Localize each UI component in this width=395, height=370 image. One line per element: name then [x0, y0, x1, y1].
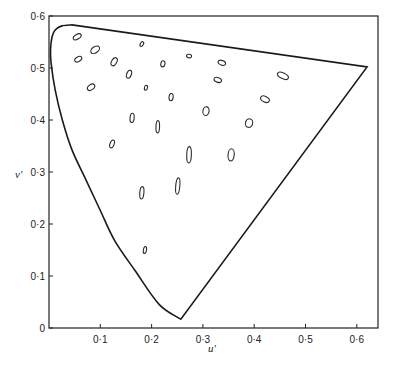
macadam-ellipse	[276, 71, 289, 81]
y-tick-label: 0·5	[31, 63, 46, 74]
macadam-ellipse	[260, 95, 271, 104]
y-tick-label: 0	[39, 323, 45, 334]
x-tick-label: 0·4	[247, 334, 262, 345]
macadam-ellipse	[213, 76, 222, 83]
macadam-ellipse	[72, 33, 82, 41]
y-tick-label: 0·1	[31, 271, 46, 282]
axis-ticks: 0·10·20·30·40·50·600·10·20·30·40·50·6	[31, 11, 365, 345]
y-tick-label: 0·2	[31, 219, 46, 230]
x-axis-label: u'	[208, 342, 217, 354]
macadam-ellipse	[144, 85, 148, 91]
x-tick-label: 0·1	[93, 334, 108, 345]
chromaticity-chart: 0·10·20·30·40·50·600·10·20·30·40·50·6 v'…	[0, 0, 395, 370]
y-axis-label: v'	[15, 168, 23, 180]
x-tick-label: 0·6	[350, 334, 365, 345]
y-tick-label: 0·3	[31, 167, 46, 178]
macadam-ellipse	[89, 44, 101, 55]
macadam-ellipse	[228, 148, 235, 161]
macadam-ellipse	[74, 55, 83, 63]
macadam-ellipse	[110, 57, 119, 67]
macadam-ellipse	[186, 147, 191, 164]
y-tick-label: 0·4	[31, 115, 46, 126]
spectrum-locus	[50, 25, 367, 319]
macadam-ellipse	[160, 60, 165, 67]
macadam-ellipse	[186, 54, 192, 58]
macadam-ellipse	[169, 93, 174, 101]
macadam-ellipse	[125, 70, 132, 79]
macadam-ellipse	[244, 118, 253, 128]
macadam-ellipse	[139, 186, 144, 199]
macadam-ellipse	[156, 121, 160, 133]
macadam-ellipse	[202, 106, 210, 116]
plot-frame	[49, 16, 378, 328]
macadam-ellipse	[86, 83, 96, 92]
x-tick-label: 0·5	[298, 334, 313, 345]
macadam-ellipse	[217, 59, 226, 66]
x-tick-label: 0·2	[144, 334, 159, 345]
y-tick-label: 0·6	[31, 11, 46, 22]
macadam-ellipse	[130, 113, 135, 123]
macadam-ellipse	[175, 178, 181, 195]
macadam-ellipse	[109, 139, 116, 148]
macadam-ellipse	[143, 246, 147, 254]
macadam-ellipse	[139, 41, 144, 47]
